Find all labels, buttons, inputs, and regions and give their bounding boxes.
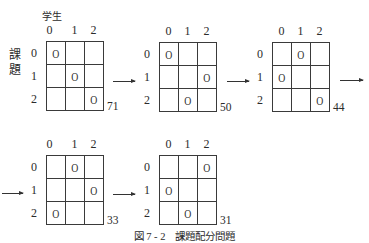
grid-cell: O <box>198 156 217 179</box>
grid-cell <box>179 156 198 179</box>
row-axis-label-char: 課 <box>8 48 22 63</box>
total-cost-label: 31 <box>220 213 232 227</box>
assignment-grid: O O O <box>46 41 104 111</box>
row-header: 0 <box>28 46 40 60</box>
grid-cell <box>66 42 85 65</box>
row-header: 2 <box>28 92 40 106</box>
total-cost-label: 44 <box>333 100 345 114</box>
assignment-matrix-step-2: 0 1 2 0 1 2 O O O 50 <box>159 42 217 112</box>
grid-cell <box>160 66 179 89</box>
figure-caption: 図 7 - 2 課題配分問題 <box>0 231 369 243</box>
row-header: 1 <box>141 183 153 197</box>
column-header: 1 <box>65 24 84 36</box>
grid-cell <box>47 179 66 202</box>
grid-cell <box>47 65 66 88</box>
grid-cell <box>273 43 292 66</box>
column-header: 2 <box>310 25 329 37</box>
row-header: 0 <box>254 47 266 61</box>
column-header: 2 <box>84 24 103 36</box>
assignment-matrix-step-5: 0 1 2 0 1 2 O O O 31 <box>159 155 217 225</box>
assignment-mark: O <box>71 161 78 174</box>
grid-cell: O <box>311 89 330 112</box>
figure-canvas: 学生 課 題 0 1 2 0 1 2 O O O 71 0 1 2 0 1 2 <box>0 0 369 243</box>
grid-cell <box>292 66 311 89</box>
grid-cell <box>311 43 330 66</box>
grid-cell <box>66 179 85 202</box>
column-header: 0 <box>40 138 59 150</box>
right-arrow-icon <box>227 81 249 82</box>
total-cost-label: 50 <box>220 100 232 114</box>
grid-cell <box>47 88 66 111</box>
grid-cell: O <box>292 43 311 66</box>
grid-cell <box>198 179 217 202</box>
row-header: 2 <box>141 206 153 220</box>
assignment-matrix-step-3: 0 1 2 0 1 2 O O O 44 <box>272 42 330 112</box>
column-header: 0 <box>40 24 59 36</box>
grid-cell: O <box>160 43 179 66</box>
grid-cell <box>179 43 198 66</box>
assignment-matrix-step-1: 0 1 2 0 1 2 O O O 71 <box>46 41 104 111</box>
grid-cell <box>66 202 85 225</box>
assignment-mark: O <box>52 207 59 220</box>
assignment-mark: O <box>90 184 97 197</box>
right-arrow-icon <box>2 193 23 194</box>
grid-cell <box>85 65 104 88</box>
grid-cell <box>198 202 217 225</box>
grid-cell: O <box>85 179 104 202</box>
row-axis-label-tasks: 課 題 <box>8 48 22 78</box>
grid-cell <box>292 89 311 112</box>
right-arrow-icon <box>113 81 135 82</box>
grid-cell <box>311 66 330 89</box>
assignment-matrix-step-4: 0 1 2 0 1 2 O O O 33 <box>46 155 104 225</box>
grid-cell <box>85 156 104 179</box>
row-header: 2 <box>28 206 40 220</box>
grid-cell <box>198 43 217 66</box>
row-header: 2 <box>141 93 153 107</box>
assignment-grid: O O O <box>46 155 104 225</box>
row-header: 1 <box>28 69 40 83</box>
row-header: 1 <box>254 70 266 84</box>
column-header: 2 <box>197 25 216 37</box>
row-axis-label-char: 題 <box>8 63 22 78</box>
total-cost-label: 71 <box>107 99 119 113</box>
grid-cell <box>198 89 217 112</box>
row-header: 1 <box>28 183 40 197</box>
assignment-mark: O <box>278 71 285 84</box>
total-cost-label: 33 <box>107 213 119 227</box>
column-header: 1 <box>291 25 310 37</box>
row-header: 0 <box>141 47 153 61</box>
grid-cell: O <box>179 202 198 225</box>
assignment-mark: O <box>297 48 304 61</box>
grid-cell: O <box>47 42 66 65</box>
grid-cell <box>273 89 292 112</box>
grid-cell: O <box>66 156 85 179</box>
assignment-mark: O <box>203 161 210 174</box>
column-header: 0 <box>159 138 178 150</box>
grid-cell: O <box>160 179 179 202</box>
grid-cell: O <box>273 66 292 89</box>
grid-cell: O <box>179 89 198 112</box>
assignment-grid: O O O <box>159 155 217 225</box>
row-header: 1 <box>141 70 153 84</box>
grid-cell: O <box>85 88 104 111</box>
grid-cell: O <box>66 65 85 88</box>
assignment-grid: O O O <box>272 42 330 112</box>
grid-cell <box>66 88 85 111</box>
grid-cell: O <box>47 202 66 225</box>
assignment-mark: O <box>165 48 172 61</box>
column-header: 2 <box>197 138 216 150</box>
grid-cell <box>47 156 66 179</box>
assignment-mark: O <box>165 184 172 197</box>
column-header: 1 <box>178 25 197 37</box>
grid-cell <box>85 202 104 225</box>
column-header: 2 <box>84 138 103 150</box>
column-header: 0 <box>159 25 178 37</box>
column-header: 0 <box>272 25 291 37</box>
row-header: 2 <box>254 93 266 107</box>
grid-cell <box>85 42 104 65</box>
assignment-mark: O <box>71 70 78 83</box>
grid-cell <box>179 179 198 202</box>
assignment-grid: O O O <box>159 42 217 112</box>
assignment-mark: O <box>90 93 97 106</box>
column-header: 1 <box>178 138 197 150</box>
